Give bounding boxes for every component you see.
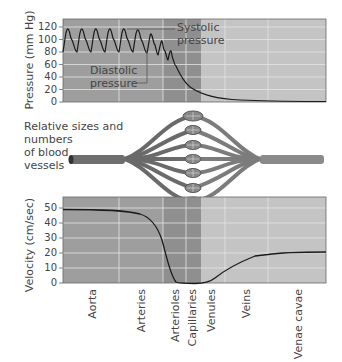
svg-text:numbers: numbers xyxy=(24,133,73,146)
category-venules: Venules xyxy=(205,289,218,332)
svg-text:of blood: of blood xyxy=(24,146,69,159)
velocity-yticks: 50 40 30 20 10 0 xyxy=(44,202,57,288)
category-labels: Aorta Arteries Arterioles Capillaries Ve… xyxy=(86,289,305,360)
velocity-chart: 50 40 30 20 10 0 Velocity (cm/sec) xyxy=(23,197,326,292)
category-arteries: Arteries xyxy=(135,289,148,332)
svg-text:80: 80 xyxy=(44,46,57,57)
velocity-axis-label: Velocity (cm/sec) xyxy=(23,198,36,292)
arteriole-capillary-region xyxy=(163,197,201,283)
svg-text:0: 0 xyxy=(51,277,57,288)
svg-text:Diastolic: Diastolic xyxy=(90,64,137,77)
diastolic-annotation: Diastolic pressure xyxy=(90,64,138,90)
vessel-diagram: Relative sizes and numbers of blood vess… xyxy=(24,111,324,207)
category-capillaries: Capillaries xyxy=(186,289,199,347)
svg-text:50: 50 xyxy=(44,202,57,213)
svg-text:vessels: vessels xyxy=(24,159,65,172)
svg-text:60: 60 xyxy=(44,59,57,70)
svg-text:10: 10 xyxy=(44,262,57,273)
svg-text:40: 40 xyxy=(44,71,57,82)
category-venae-cavae: Venae cavae xyxy=(292,289,305,359)
pressure-axis-label: Pressure (mm Hg) xyxy=(23,10,36,109)
svg-text:120: 120 xyxy=(38,21,57,32)
vessel-label: Relative sizes and numbers of blood vess… xyxy=(24,120,123,172)
venous-region xyxy=(201,197,326,283)
blood-flow-figure: 120 100 80 60 40 20 0 Systolic pressure … xyxy=(0,0,342,362)
svg-text:Relative sizes and: Relative sizes and xyxy=(24,120,123,133)
pressure-yticks: 120 100 80 60 40 20 0 xyxy=(38,21,57,107)
svg-text:Systolic: Systolic xyxy=(177,21,219,34)
category-veins: Veins xyxy=(240,289,253,318)
vena-cava-vessel xyxy=(260,155,324,164)
svg-text:30: 30 xyxy=(44,232,57,243)
svg-text:pressure: pressure xyxy=(177,34,225,47)
pressure-chart: 120 100 80 60 40 20 0 Systolic pressure … xyxy=(23,10,326,109)
svg-text:20: 20 xyxy=(44,84,57,95)
aorta-vessel xyxy=(70,155,125,164)
svg-text:40: 40 xyxy=(44,217,57,228)
svg-text:20: 20 xyxy=(44,247,57,258)
systolic-annotation: Systolic pressure xyxy=(177,21,225,47)
arterial-branches xyxy=(125,116,193,202)
svg-text:0: 0 xyxy=(51,96,57,107)
svg-text:100: 100 xyxy=(38,34,57,45)
svg-text:pressure: pressure xyxy=(90,77,138,90)
category-arterioles: Arterioles xyxy=(169,289,182,342)
category-aorta: Aorta xyxy=(86,289,99,319)
venous-branches xyxy=(193,116,260,202)
